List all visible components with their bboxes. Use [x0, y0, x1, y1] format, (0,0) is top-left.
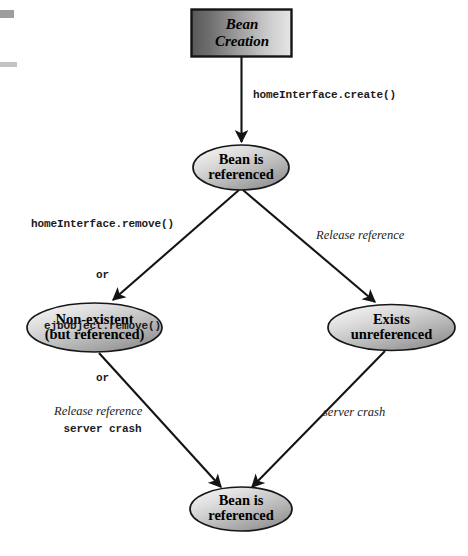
edge-label-release-reference-left: Release reference: [54, 404, 142, 419]
edge-label-server-crash: server crash: [323, 405, 385, 420]
node-bean-referenced-bottom[interactable]: [190, 487, 292, 531]
node-bean-creation[interactable]: [192, 10, 292, 57]
edge-referenced-to-unreferenced: [243, 190, 375, 302]
node-bean-referenced-top[interactable]: [193, 145, 289, 190]
node-exists-unreferenced[interactable]: [328, 305, 455, 351]
edge-label-release-reference-right: Release reference: [316, 228, 404, 243]
edge-label-home-interface-create: homeInterface.create(): [253, 87, 396, 104]
